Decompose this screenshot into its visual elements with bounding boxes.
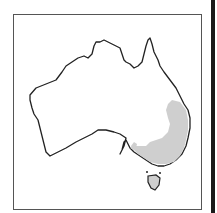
island-dot	[146, 171, 148, 173]
australia-map	[0, 0, 217, 213]
island-dot	[159, 172, 161, 174]
tasmania	[148, 175, 160, 190]
